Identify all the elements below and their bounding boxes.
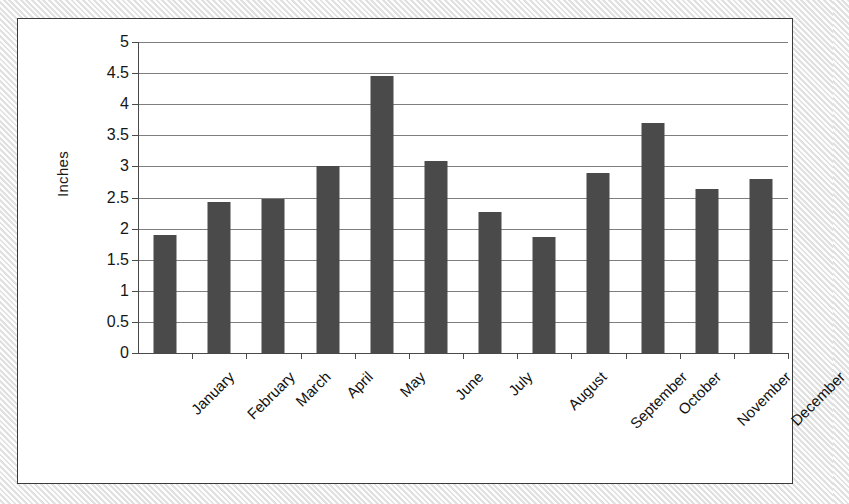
y-axis-tick-label: 4 xyxy=(120,95,129,113)
bar-slot xyxy=(192,42,246,353)
bar-slot xyxy=(680,42,734,353)
x-axis-tick-label: June xyxy=(452,368,487,403)
x-axis-tick-label: July xyxy=(504,368,535,399)
y-axis-tick-label: 1 xyxy=(120,282,129,300)
x-axis-tick-mark xyxy=(680,353,681,359)
x-axis-tick-mark xyxy=(301,353,302,359)
y-axis-tick-label: 3.5 xyxy=(107,126,129,144)
bar[interactable] xyxy=(262,199,285,353)
x-axis-tick-mark xyxy=(246,353,247,359)
bar[interactable] xyxy=(154,235,177,353)
bar[interactable] xyxy=(424,161,447,353)
bar[interactable] xyxy=(316,166,339,353)
bar-slot xyxy=(517,42,571,353)
y-axis-tick-label: 2.5 xyxy=(107,189,129,207)
y-axis-tick-label: 0.5 xyxy=(107,313,129,331)
bar[interactable] xyxy=(533,237,556,353)
y-axis-tick-label: 0 xyxy=(120,344,129,362)
x-axis-tick-mark xyxy=(626,353,627,359)
bar[interactable] xyxy=(641,123,664,353)
bar-slot xyxy=(463,42,517,353)
y-axis-title: Inches xyxy=(54,151,71,197)
chart-frame: Inches 00.511.522.533.544.55 JanuaryFebr… xyxy=(17,18,793,484)
x-axis-tick-mark xyxy=(463,353,464,359)
bar[interactable] xyxy=(479,212,502,353)
x-axis-tick-mark xyxy=(571,353,572,359)
x-axis-tick-mark xyxy=(734,353,735,359)
y-axis-tick-label: 5 xyxy=(120,33,129,51)
bar-slot xyxy=(626,42,680,353)
bar-slot xyxy=(734,42,788,353)
x-axis-tick-label: November xyxy=(734,368,795,429)
x-axis-tick-mark xyxy=(192,353,193,359)
caption-strip xyxy=(0,490,833,504)
bar-slot xyxy=(571,42,625,353)
bar-slot xyxy=(355,42,409,353)
plot-area: 00.511.522.533.544.55 JanuaryFebruaryMar… xyxy=(138,42,788,353)
bar[interactable] xyxy=(695,189,718,353)
bar[interactable] xyxy=(749,179,772,353)
y-axis-tick-label: 4.5 xyxy=(107,64,129,82)
bar[interactable] xyxy=(587,173,610,353)
bar-slot xyxy=(409,42,463,353)
y-axis-tick-label: 2 xyxy=(120,220,129,238)
bar[interactable] xyxy=(370,76,393,353)
x-axis-tick-label: February xyxy=(243,368,297,422)
x-axis-tick-mark xyxy=(409,353,410,359)
x-axis-tick-label: April xyxy=(343,368,376,401)
x-axis-tick-label: January xyxy=(187,368,237,418)
x-axis-tick-mark xyxy=(517,353,518,359)
x-axis-tick-label: May xyxy=(397,368,429,400)
x-axis-tick-label: August xyxy=(564,368,609,413)
bar[interactable] xyxy=(208,202,231,353)
bar-slot xyxy=(301,42,355,353)
x-axis-tick-label: December xyxy=(788,368,849,429)
y-axis-tick-label: 1.5 xyxy=(107,251,129,269)
x-axis-tick-mark xyxy=(788,353,789,359)
x-axis-tick-mark xyxy=(355,353,356,359)
bar-slot xyxy=(246,42,300,353)
x-axis-tick-label: March xyxy=(292,368,333,409)
y-axis-tick-label: 3 xyxy=(120,157,129,175)
bar-slot xyxy=(138,42,192,353)
